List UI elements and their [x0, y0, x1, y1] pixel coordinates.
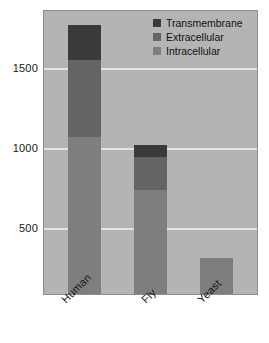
legend-label: Intracellular [166, 46, 220, 56]
legend-item-transmembrane[interactable]: Transmembrane [153, 18, 243, 28]
bar-segment-transmembrane [68, 25, 101, 60]
bar-fly[interactable] [134, 145, 167, 295]
legend-item-extracellular[interactable]: Extracellular [153, 32, 243, 42]
plot-area: Transmembrane Extracellular Intracellula… [43, 10, 258, 295]
x-axis: Human Fly Yeast [43, 297, 258, 343]
bar-segment-extracellular [68, 60, 101, 137]
bar-human[interactable] [68, 25, 101, 295]
legend-label: Transmembrane [166, 18, 243, 28]
y-tick-label: 1000 [0, 142, 38, 154]
y-tick-label: 1500 [0, 62, 38, 74]
legend-item-intracellular[interactable]: Intracellular [153, 46, 243, 56]
chart-legend: Transmembrane Extracellular Intracellula… [153, 18, 243, 56]
legend-swatch-intracellular [153, 47, 161, 55]
bar-segment-intracellular [134, 190, 167, 295]
chart-figure: 1500 1000 500 Transmembrane [0, 0, 269, 343]
legend-label: Extracellular [166, 32, 224, 42]
legend-swatch-transmembrane [153, 19, 161, 27]
legend-swatch-extracellular [153, 33, 161, 41]
y-axis: 1500 1000 500 [0, 10, 43, 295]
bar-segment-transmembrane [134, 145, 167, 157]
bar-segment-extracellular [134, 157, 167, 190]
y-tick-label: 500 [0, 222, 38, 234]
